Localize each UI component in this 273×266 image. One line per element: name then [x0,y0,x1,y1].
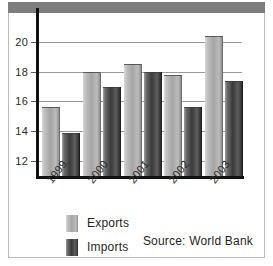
y-tick-label: 14 [15,125,28,137]
bar-exports-2003 [205,36,223,176]
bar-group-1999 [42,24,79,176]
bar-group-2001 [124,24,161,176]
y-tick-label: 18 [15,66,28,78]
y-tick-label: 20 [15,36,28,48]
legend-label-exports: Exports [87,216,129,230]
y-tick-label: 12 [15,155,28,167]
bar-cap [124,64,141,65]
bar-cap [184,107,201,108]
legend-label-imports: Imports [87,240,128,254]
bar-cap [164,75,181,76]
bar-cap [42,107,59,108]
x-axis-labels: 19992000200120022003 [38,178,242,218]
legend-swatch-exports-icon [66,215,78,232]
bar-cap [144,72,161,73]
legend-item-exports: Exports [66,213,129,233]
bar-cap [83,72,100,73]
y-axis-line [36,8,39,178]
plot-area: 1214161820 [38,24,242,176]
bar-group-2003 [205,24,242,176]
bar-cap [205,36,222,37]
bar-series-container [38,24,242,176]
bar-cap [103,87,120,88]
legend-item-imports: Imports [66,237,129,257]
y-tick-label: 16 [15,95,28,107]
bar-group-2002 [164,24,201,176]
bar-exports-2001 [124,64,142,176]
bar-cap [225,81,242,82]
chart-legend: Exports Imports [66,213,129,261]
chart-figure: 1214161820 19992000200120022003 Exports … [0,0,273,266]
legend-swatch-imports-icon [66,239,78,256]
bar-cap [62,133,79,134]
source-note: Source: World Bank [143,234,253,248]
header-band [8,2,265,13]
plot-inner: 1214161820 [38,24,242,176]
bar-group-2000 [83,24,120,176]
